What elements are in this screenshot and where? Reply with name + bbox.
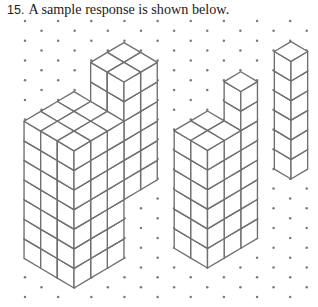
grid-dot — [289, 256, 292, 259]
grid-dot — [272, 30, 275, 33]
grid-dot — [272, 247, 275, 250]
grid-dot — [272, 227, 275, 230]
grid-dot — [24, 99, 27, 102]
grid-dot — [239, 286, 242, 289]
grid-dot — [156, 217, 159, 220]
grid-dot — [57, 59, 60, 62]
grid-dot — [24, 39, 27, 42]
grid-dot — [40, 286, 43, 289]
grid-dot — [190, 20, 193, 23]
grid-dot — [272, 187, 275, 190]
grid-dot — [173, 89, 176, 92]
grid-dot — [206, 89, 209, 92]
grid-dot — [156, 276, 159, 279]
grid-dot — [272, 266, 275, 269]
grid-dot — [173, 108, 176, 111]
grid-dot — [289, 296, 292, 299]
grid-dot — [173, 49, 176, 52]
grid-dot — [123, 20, 126, 23]
grid-dot — [24, 20, 27, 23]
grid-dot — [289, 276, 292, 279]
grid-dot — [190, 39, 193, 42]
grid-dot — [123, 276, 126, 279]
grid-dot — [140, 207, 143, 210]
grid-dot — [107, 30, 110, 33]
grid-dot — [305, 286, 308, 289]
grid-dot — [239, 69, 242, 72]
grid-dot — [57, 39, 60, 42]
grid-dot — [289, 217, 292, 220]
grid-dot — [57, 79, 60, 82]
grid-dot — [305, 207, 308, 210]
grid-dot — [156, 256, 159, 259]
grid-dot — [156, 296, 159, 299]
grid-dot — [305, 266, 308, 269]
grid-dot — [140, 247, 143, 250]
grid-dot — [57, 296, 60, 299]
grid-dot — [206, 30, 209, 33]
grid-dot — [140, 227, 143, 230]
grid-dot — [256, 256, 259, 259]
grid-dot — [289, 197, 292, 200]
middle-cube-structure — [174, 72, 257, 268]
grid-dot — [223, 39, 226, 42]
grid-dot — [73, 89, 76, 92]
grid-dot — [40, 69, 43, 72]
grid-dot — [40, 30, 43, 33]
grid-dot — [289, 20, 292, 23]
grid-dot — [24, 296, 27, 299]
grid-dot — [239, 266, 242, 269]
grid-dot — [123, 296, 126, 299]
grid-dot — [256, 39, 259, 42]
grid-dot — [40, 49, 43, 52]
grid-dot — [305, 187, 308, 190]
grid-dot — [24, 79, 27, 82]
grid-dot — [206, 69, 209, 72]
grid-dot — [173, 266, 176, 269]
grid-dot — [223, 59, 226, 62]
grid-dot — [256, 20, 259, 23]
grid-dot — [190, 99, 193, 102]
grid-dot — [24, 276, 27, 279]
grid-dot — [57, 20, 60, 23]
grid-dot — [190, 59, 193, 62]
grid-dot — [123, 39, 126, 42]
grid-dot — [173, 30, 176, 33]
grid-dot — [156, 197, 159, 200]
grid-dot — [190, 79, 193, 82]
grid-dot — [73, 30, 76, 33]
grid-dot — [24, 59, 27, 62]
grid-dot — [305, 227, 308, 230]
grid-dot — [90, 39, 93, 42]
grid-dot — [272, 207, 275, 210]
grid-dot — [223, 276, 226, 279]
grid-dot — [140, 286, 143, 289]
grid-dot — [156, 20, 159, 23]
grid-dot — [156, 237, 159, 240]
grid-dot — [140, 30, 143, 33]
right-cube-structure — [274, 42, 307, 179]
grid-dot — [190, 276, 193, 279]
grid-dot — [40, 89, 43, 92]
grid-dot — [173, 69, 176, 72]
grid-dot — [256, 296, 259, 299]
grid-dot — [190, 296, 193, 299]
grid-dot — [140, 266, 143, 269]
grid-dot — [223, 296, 226, 299]
grid-dot — [73, 69, 76, 72]
grid-dot — [90, 20, 93, 23]
left-cube-structure — [24, 43, 157, 288]
grid-dot — [256, 59, 259, 62]
grid-dot — [90, 296, 93, 299]
grid-dot — [206, 49, 209, 52]
grid-dot — [239, 30, 242, 33]
grid-dot — [206, 286, 209, 289]
isometric-figure — [0, 0, 318, 307]
grid-dot — [173, 286, 176, 289]
grid-dot — [305, 247, 308, 250]
grid-dot — [239, 49, 242, 52]
grid-dot — [289, 237, 292, 240]
grid-dot — [256, 276, 259, 279]
grid-dot — [156, 39, 159, 42]
grid-dot — [272, 286, 275, 289]
